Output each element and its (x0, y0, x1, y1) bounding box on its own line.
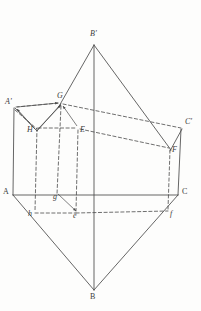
edge-F-f (168, 150, 170, 209)
vertex-label-A: A (3, 188, 9, 196)
vertex-label-Cp: C' (185, 118, 192, 126)
vertex-label-F: F (172, 146, 177, 154)
arrow-g-to-e (58, 194, 76, 211)
arrow-Ap-to-G (17, 103, 58, 107)
edge-Bp-G (58, 45, 94, 108)
edge-A-Ap (13, 108, 14, 195)
vertex-label-B: B (90, 293, 95, 301)
edge-Bp-F (94, 45, 171, 150)
vertex-label-Bp: B' (90, 30, 97, 38)
figure-canvas (0, 0, 201, 311)
edge-G-g (57, 106, 61, 194)
arrow-E-to-G (63, 106, 77, 126)
vertex-label-G: G (57, 92, 63, 100)
vertex-label-Ap: A' (5, 98, 12, 106)
visible-edges-group (13, 45, 182, 290)
edge-E-F (80, 129, 169, 148)
edge-e-f (76, 211, 168, 213)
edge-C-B (94, 195, 178, 290)
vertex-label-e: e (73, 212, 77, 220)
vertex-label-C: C (182, 188, 187, 196)
edge-A-B (13, 195, 94, 290)
vertex-label-g: g (53, 193, 57, 201)
vertex-label-f: f (170, 210, 172, 218)
vertex-label-E: E (80, 126, 85, 134)
edge-H-h (35, 128, 37, 211)
arrow-H-to-G (38, 105, 61, 129)
geometry-figure: B'A'GC'HEFACgehfB (0, 0, 201, 311)
edge-E-e (76, 130, 78, 211)
edge-C-Cp (178, 129, 181, 195)
hidden-edges-group (15, 103, 181, 213)
vertex-label-h: h (28, 210, 32, 218)
vertex-label-H: H (27, 126, 33, 134)
